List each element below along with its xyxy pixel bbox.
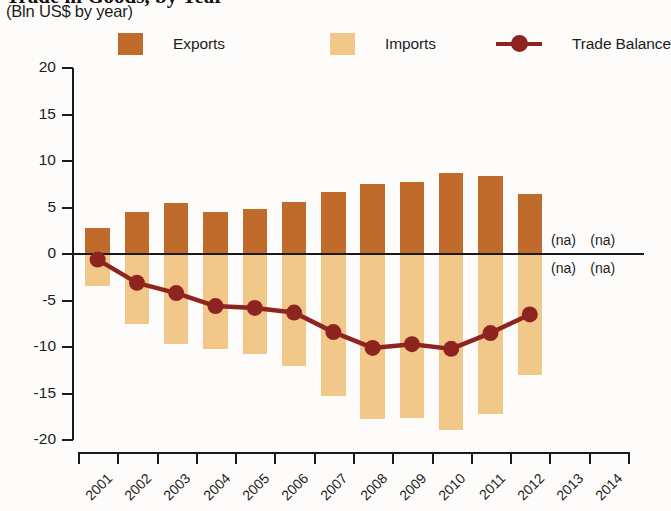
y-tick--15: [62, 393, 73, 395]
y-tick--10: [62, 346, 73, 348]
y-tick--20: [62, 439, 73, 441]
x-tick-2: [157, 452, 159, 464]
export-bar-2008: [360, 184, 384, 254]
y-tick-20: [62, 67, 73, 69]
x-tick-5: [274, 452, 276, 464]
x-tick-10: [471, 452, 473, 464]
y-tick-10: [62, 160, 73, 162]
x-tick-label-2009: 2009: [384, 470, 429, 511]
import-bar-2007: [321, 254, 345, 396]
import-bar-2005: [243, 254, 267, 354]
export-bar-2007: [321, 192, 345, 254]
x-tick-0: [78, 452, 80, 464]
import-bar-2012: [518, 254, 542, 375]
na-label-2014-below-zero: (na): [590, 260, 615, 276]
trade-balance-polyline: [98, 260, 530, 349]
x-tick-12: [549, 452, 551, 464]
x-tick-6: [314, 452, 316, 464]
y-tick-label-0: 0: [16, 244, 56, 262]
export-bar-2011: [478, 176, 502, 254]
y-tick-5: [62, 207, 73, 209]
export-bar-2001: [85, 228, 109, 254]
x-tick-label-2008: 2008: [345, 470, 390, 511]
x-tick-label-2003: 2003: [148, 470, 193, 511]
import-bar-2001: [85, 254, 109, 286]
x-tick-label-2010: 2010: [423, 470, 468, 511]
export-bar-2006: [282, 202, 306, 254]
x-tick-label-2005: 2005: [227, 470, 272, 511]
import-bar-2004: [203, 254, 227, 349]
y-tick-15: [62, 114, 73, 116]
x-tick-label-2011: 2011: [463, 470, 508, 511]
x-tick-label-2002: 2002: [109, 470, 154, 511]
y-tick-label-5: 5: [16, 198, 56, 216]
x-tick-1: [117, 452, 119, 464]
x-tick-label-2012: 2012: [502, 470, 547, 511]
na-label-2013-below-zero: (na): [551, 260, 576, 276]
import-bar-2011: [478, 254, 502, 414]
y-tick-label-20: 20: [16, 58, 56, 76]
export-bar-2002: [125, 212, 149, 254]
x-tick-8: [392, 452, 394, 464]
y-tick-label--5: -5: [16, 291, 56, 309]
import-bar-2008: [360, 254, 384, 419]
export-bar-2004: [203, 212, 227, 254]
y-tick--5: [62, 300, 73, 302]
x-tick-label-2006: 2006: [266, 470, 311, 511]
x-tick-label-2001: 2001: [70, 470, 115, 511]
y-tick-label--10: -10: [16, 337, 56, 355]
y-tick-label-15: 15: [16, 105, 56, 123]
zero-line: [72, 253, 644, 255]
import-bar-2006: [282, 254, 306, 366]
x-tick-3: [196, 452, 198, 464]
x-tick-label-2014: 2014: [580, 470, 625, 511]
x-tick-9: [432, 452, 434, 464]
y-tick-label--20: -20: [16, 430, 56, 448]
x-tick-label-2013: 2013: [541, 470, 586, 511]
x-tick-label-2007: 2007: [305, 470, 350, 511]
export-bar-2010: [439, 173, 463, 254]
export-bar-2003: [164, 203, 188, 254]
x-tick-11: [510, 452, 512, 464]
na-label-2013-above-zero: (na): [551, 232, 576, 248]
import-bar-2002: [125, 254, 149, 324]
y-tick-label--15: -15: [16, 384, 56, 402]
export-bar-2009: [400, 182, 424, 254]
x-tick-4: [235, 452, 237, 464]
import-bar-2003: [164, 254, 188, 344]
x-tick-7: [353, 452, 355, 464]
x-tick-label-2004: 2004: [188, 470, 233, 511]
x-tick-13: [589, 452, 591, 464]
import-bar-2009: [400, 254, 424, 418]
import-bar-2010: [439, 254, 463, 430]
export-bar-2012: [518, 194, 542, 254]
y-tick-label-10: 10: [16, 151, 56, 169]
export-bar-2005: [243, 209, 267, 254]
na-label-2014-above-zero: (na): [590, 232, 615, 248]
x-tick-14: [628, 452, 630, 464]
